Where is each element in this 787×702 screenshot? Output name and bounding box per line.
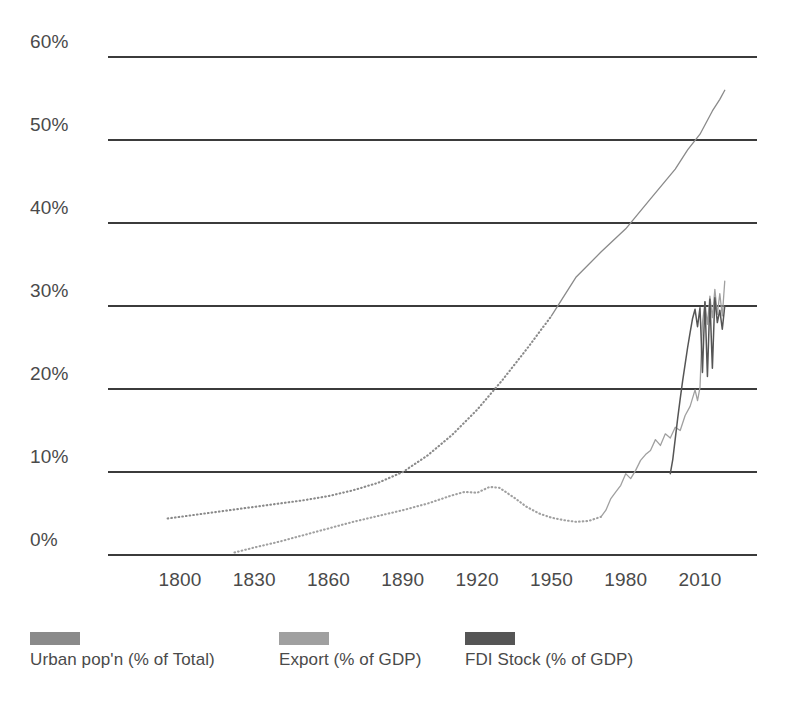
x-axis-tick-label: 1890 [381,569,424,590]
series-line-solid-0 [551,90,724,316]
y-axis-tick-label: 30% [30,280,69,301]
legend-swatch-export [279,632,329,645]
chart-figure: 0%10%20%30%40%50%60% 1800183018601890192… [0,0,787,702]
source-note [62,690,762,702]
x-axis-tick-label: 1920 [456,569,499,590]
y-axis-tick-label: 50% [30,114,69,135]
x-axis-tick-label: 1950 [530,569,573,590]
legend-label-fdi-stock: FDI Stock (% of GDP) [465,650,633,670]
y-axis-tick-label: 40% [30,197,69,218]
series-line-solid-2 [670,298,724,474]
legend-item-export: Export (% of GDP) [279,632,421,670]
x-axis-tick-label: 1800 [158,569,201,590]
x-axis-tick-label: 1860 [307,569,350,590]
series-line-dotted-1 [234,487,600,553]
x-axis-tick-label: 1980 [604,569,647,590]
legend-label-urban-pop: Urban pop'n (% of Total) [30,650,215,670]
y-axis-tick-label: 0% [30,529,58,550]
y-axis-tick-label: 60% [30,31,69,52]
gridlines [108,57,757,555]
data-series [168,90,725,552]
legend-item-fdi-stock: FDI Stock (% of GDP) [465,632,633,670]
y-axis-tick-label: 10% [30,446,69,467]
x-axis-tick-label: 2010 [678,569,721,590]
legend-swatch-urban-pop [30,632,80,645]
chart-legend: Urban pop'n (% of Total) Export (% of GD… [30,632,770,678]
x-axis-tick-label: 1830 [233,569,276,590]
legend-swatch-fdi-stock [465,632,515,645]
y-axis-tick-labels: 0%10%20%30%40%50%60% [30,31,69,550]
line-chart-plot: 0%10%20%30%40%50%60% 1800183018601890192… [0,0,787,702]
series-line-solid-1 [601,281,725,517]
legend-label-export: Export (% of GDP) [279,650,421,670]
series-line-dotted-0 [168,316,552,519]
legend-item-urban-pop: Urban pop'n (% of Total) [30,632,215,670]
x-axis-tick-labels: 18001830186018901920195019802010 [158,569,721,590]
y-axis-tick-label: 20% [30,363,69,384]
